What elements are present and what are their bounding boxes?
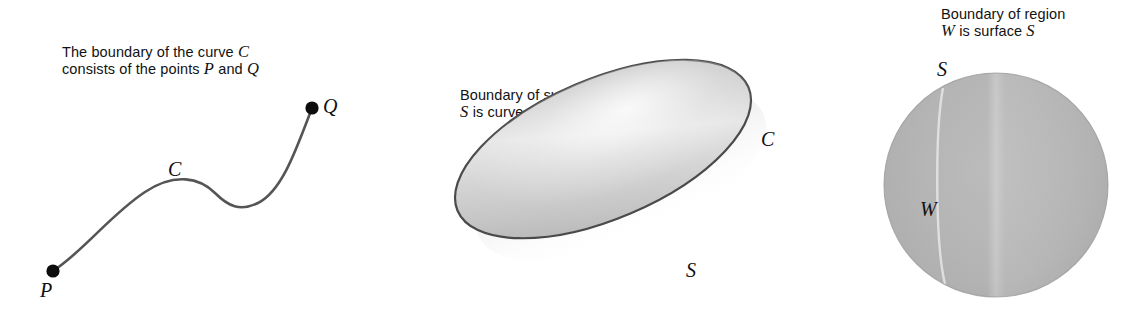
label-surface-s: S — [686, 259, 696, 282]
curve-graphic — [0, 0, 380, 309]
label-point-p: P — [40, 279, 52, 302]
point-q-dot — [305, 101, 318, 114]
label-region-w: W — [920, 198, 937, 221]
topology-boundary-figure: The boundary of the curve C consists of … — [0, 0, 1141, 309]
curve-path-c — [53, 108, 312, 271]
surface-graphic — [380, 0, 800, 309]
panel-region-boundary: Boundary of region W is surface S — [800, 0, 1141, 309]
region-graphic — [800, 0, 1141, 309]
panel-curve-boundary: The boundary of the curve C consists of … — [0, 0, 380, 309]
point-p-dot — [46, 264, 59, 277]
label-surface-s-region: S — [937, 58, 947, 81]
panel-surface-boundary: Boundary of surface S is curve C — [380, 0, 800, 309]
label-point-q: Q — [323, 95, 337, 118]
label-curve-c: C — [168, 158, 181, 181]
region-ball-band — [884, 73, 1108, 297]
label-boundary-curve-c: C — [761, 128, 774, 151]
